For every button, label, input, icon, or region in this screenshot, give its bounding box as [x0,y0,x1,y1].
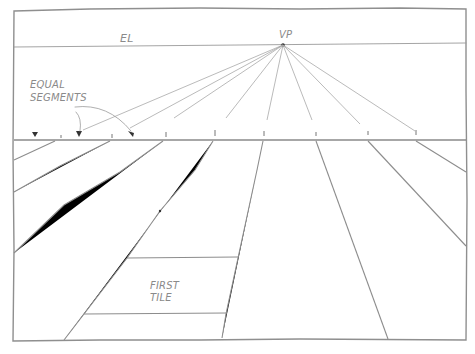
equal-segments-line2: SEGMENTS [30,91,87,104]
vanishing-point-label: VP [279,30,292,40]
first-tile-bottom-edge [84,313,227,314]
arrow-marker-icon [32,132,38,137]
first-tile-top-edge [127,257,238,258]
construction-dot [159,210,161,212]
first-tile-line2: TILE [150,292,179,304]
pointer-arrow-2 [75,107,131,132]
first-tile-line1: FIRST [150,280,179,292]
eye-level-label: EL [120,33,133,44]
arrow-marker-icon [128,131,134,137]
perspective-diagram [0,0,475,354]
arrow-markers [32,131,134,137]
equal-segments-label: EQUAL SEGMENTS [30,78,87,104]
arrow-marker-icon [76,131,82,137]
first-tile-label: FIRST TILE [150,280,179,304]
pointer-arrow-1 [76,112,81,131]
eye-level-line [14,43,466,47]
floor-lines [14,141,466,340]
equal-segments-line1: EQUAL [30,78,87,91]
converging-rays [83,45,415,131]
equal-segment-ticks [61,130,416,138]
